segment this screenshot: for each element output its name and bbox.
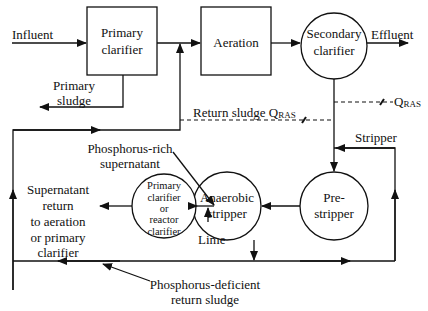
primary-clarifier-box bbox=[87, 7, 157, 75]
secondary-clarifier-label-1: Secondary bbox=[301, 26, 367, 41]
primary-sludge-label-1: Primary bbox=[44, 78, 104, 93]
lime-label: Lime bbox=[198, 232, 225, 247]
return-sludge-label: Return sludge QRAS bbox=[193, 105, 296, 123]
anaerobic-stripper-label-2: stripper bbox=[194, 206, 260, 221]
primary-clarifier-label-2: clarifier bbox=[87, 42, 157, 57]
qras-label: QRAS bbox=[394, 94, 421, 112]
primary-sludge-label-2: sludge bbox=[44, 93, 104, 108]
reactor-clarifier-label-1: Primary bbox=[134, 180, 194, 192]
secondary-clarifier-label-2: clarifier bbox=[301, 43, 367, 58]
phosphorus-rich-label-2: supernatant bbox=[80, 156, 180, 171]
phosphorus-rich-label-1: Phosphorus-rich bbox=[80, 141, 180, 156]
phosphorus-deficient-label-2: return sludge bbox=[140, 292, 270, 307]
process-diagram: Influent Primary clarifier Aeration Seco… bbox=[0, 0, 428, 311]
stripper-label: Stripper bbox=[355, 130, 397, 145]
primary-clarifier-label-1: Primary bbox=[87, 25, 157, 40]
supernatant-label-2: return bbox=[18, 198, 98, 213]
supernatant-label-3: to aeration bbox=[18, 214, 98, 229]
influent-label: Influent bbox=[12, 27, 53, 42]
phosphorus-deficient-label-1: Phosphorus-deficient bbox=[140, 277, 270, 292]
effluent-label: Effluent bbox=[371, 27, 413, 42]
anaerobic-stripper-label-1: Anaerobic bbox=[194, 190, 260, 205]
pre-stripper-label-1: Pre- bbox=[301, 190, 367, 205]
supernatant-label-4: or primary bbox=[18, 230, 98, 245]
aeration-label: Aeration bbox=[201, 35, 271, 50]
supernatant-label-1: Supernatant bbox=[18, 182, 98, 197]
reactor-clarifier-label-5: clarifier bbox=[134, 226, 194, 238]
reactor-clarifier-label-4: reactor bbox=[134, 214, 194, 226]
supernatant-label-5: clarifier bbox=[18, 245, 98, 260]
pre-stripper-label-2: stripper bbox=[301, 206, 367, 221]
